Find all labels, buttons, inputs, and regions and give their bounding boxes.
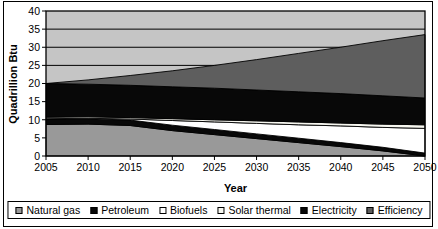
x-tick-label: 2030	[245, 161, 269, 173]
x-tick-label: 2015	[119, 161, 143, 173]
y-tick-label: 35	[28, 23, 40, 35]
legend-item-solar-thermal: Solar thermal	[217, 204, 290, 216]
x-tick-label: 2040	[329, 161, 353, 173]
legend-label: Natural gas	[26, 204, 80, 216]
x-tick-label: 2020	[161, 161, 185, 173]
x-tick-label: 2045	[371, 161, 395, 173]
legend-label: Solar thermal	[228, 204, 290, 216]
y-axis: 0510152025303540	[28, 5, 46, 162]
legend-swatch	[217, 207, 224, 214]
legend-label: Electricity	[312, 204, 357, 216]
legend-item-natural-gas: Natural gas	[15, 204, 80, 216]
legend-item-efficiency: Efficiency	[367, 204, 423, 216]
legend-swatch	[159, 207, 166, 214]
y-tick-label: 30	[28, 41, 40, 53]
y-tick-label: 5	[34, 132, 40, 144]
legend-swatch	[15, 207, 22, 214]
x-tick-label: 2005	[34, 161, 58, 173]
y-tick-label: 0	[34, 150, 40, 162]
legend-swatch	[90, 207, 97, 214]
legend-item-biofuels: Biofuels	[159, 204, 207, 216]
y-tick-label: 40	[28, 5, 40, 17]
legend-swatch	[301, 207, 308, 214]
legend-swatch	[367, 207, 374, 214]
legend: Natural gasPetroleumBiofuelsSolar therma…	[7, 201, 430, 219]
x-axis-title: Year	[46, 182, 425, 194]
x-tick-label: 2010	[76, 161, 100, 173]
x-tick-label: 2025	[203, 161, 227, 173]
y-axis-title: Quadrillion Btu	[7, 19, 19, 149]
legend-label: Biofuels	[170, 204, 207, 216]
legend-item-petroleum: Petroleum	[90, 204, 149, 216]
x-axis: 2005201020152020202520302035204020452050	[34, 156, 437, 173]
y-tick-label: 25	[28, 59, 40, 71]
stacked-area-chart: 0510152025303540200520102015202020252030…	[0, 0, 438, 229]
x-tick-label: 2050	[413, 161, 437, 173]
y-tick-label: 10	[28, 114, 40, 126]
energy-area-chart-figure: 0510152025303540200520102015202020252030…	[0, 0, 438, 229]
legend-label: Efficiency	[378, 204, 423, 216]
x-tick-label: 2035	[287, 161, 311, 173]
y-tick-label: 20	[28, 77, 40, 89]
legend-label: Petroleum	[101, 204, 149, 216]
legend-item-electricity: Electricity	[301, 204, 357, 216]
y-tick-label: 15	[28, 95, 40, 107]
